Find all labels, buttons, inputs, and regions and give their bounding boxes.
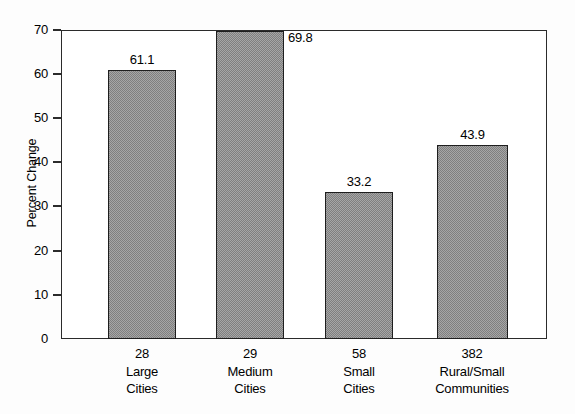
x-category-count: 58 [299, 345, 419, 363]
bar-value-rural-small-communities: 43.9 [437, 127, 508, 143]
bar-large-cities[interactable] [108, 70, 176, 339]
x-category-medium-cities: 29 Medium Cities [190, 345, 310, 398]
x-category-line2: Cities [82, 380, 202, 398]
bar-small-cities[interactable] [325, 192, 393, 339]
bar-medium-cities[interactable] [216, 31, 284, 339]
bar-chart-figure: Percent Change 70 60 50 40 30 20 10 0 61… [0, 0, 575, 414]
y-tick-label: 10 [0, 286, 48, 304]
x-category-rural-small-communities: 382 Rural/Small Communities [402, 345, 542, 398]
x-category-line1: Large [82, 363, 202, 381]
x-category-line1: Small [299, 363, 419, 381]
bar-value-medium-cities: 69.8 [288, 30, 338, 46]
y-tick-label: 0 [0, 330, 48, 348]
x-category-line2: Communities [402, 380, 542, 398]
y-tick-label: 70 [0, 21, 48, 39]
y-tick-label: 60 [0, 65, 48, 83]
y-tick-label: 40 [0, 153, 48, 171]
y-axis-title: Percent Change [24, 103, 40, 263]
bar-rural-small-communities[interactable] [437, 145, 508, 339]
x-category-count: 29 [190, 345, 310, 363]
y-tick-line [53, 161, 61, 163]
x-category-count: 28 [82, 345, 202, 363]
x-category-small-cities: 58 Small Cities [299, 345, 419, 398]
y-tick-line [53, 29, 61, 31]
x-category-line2: Cities [299, 380, 419, 398]
bar-value-large-cities: 61.1 [108, 52, 176, 68]
x-category-line1: Medium [190, 363, 310, 381]
x-category-line2: Cities [190, 380, 310, 398]
y-tick-line [53, 250, 61, 252]
y-tick-line [53, 294, 61, 296]
y-tick-line [53, 117, 61, 119]
y-tick-line [53, 73, 61, 75]
y-tick-line [53, 205, 61, 207]
x-category-count: 382 [402, 345, 542, 363]
y-tick-label: 30 [0, 197, 48, 215]
y-tick-label: 20 [0, 242, 48, 260]
x-category-large-cities: 28 Large Cities [82, 345, 202, 398]
y-tick-label: 50 [0, 109, 48, 127]
bar-value-small-cities: 33.2 [325, 174, 393, 190]
x-category-line1: Rural/Small [402, 363, 542, 381]
